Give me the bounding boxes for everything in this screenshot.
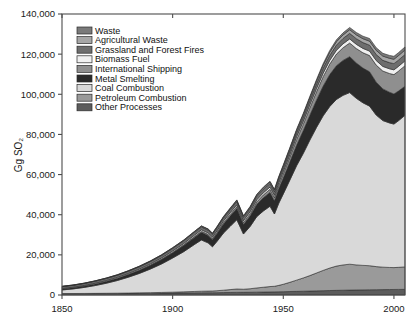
legend-swatch-grassland-and-forest-fires — [77, 46, 92, 53]
y-tick-label: 140,000 — [21, 8, 55, 19]
legend-swatch-coal-combustion — [77, 85, 92, 92]
y-tick-label: 60,000 — [26, 169, 55, 180]
legend-label-coal-combustion: Coal Combustion — [95, 83, 164, 93]
legend-label-waste: Waste — [95, 26, 120, 36]
y-tick-label: 100,000 — [21, 89, 55, 100]
legend-swatch-petroleum-combustion — [77, 94, 92, 101]
legend-swatch-waste — [77, 27, 92, 34]
legend-label-grassland-and-forest-fires: Grassland and Forest Fires — [95, 45, 205, 55]
stacked-area-chart: 020,00040,00060,00080,000100,000120,0001… — [0, 0, 415, 325]
y-tick-label: 80,000 — [26, 129, 55, 140]
legend-swatch-biomass-fuel — [77, 56, 92, 63]
chart-figure: 020,00040,00060,00080,000100,000120,0001… — [0, 0, 415, 325]
legend-label-other-processes: Other Processes — [95, 102, 163, 112]
y-tick-label: 40,000 — [26, 209, 55, 220]
y-axis-ticks-group: 020,00040,00060,00080,000100,000120,0001… — [21, 8, 62, 300]
y-tick-label: 120,000 — [21, 49, 55, 60]
legend-swatch-international-shipping — [77, 65, 92, 72]
legend-label-agricultural-waste: Agricultural Waste — [95, 35, 168, 45]
legend-swatch-agricultural-waste — [77, 37, 92, 44]
legend-label-biomass-fuel: Biomass Fuel — [95, 54, 150, 64]
x-tick-label: 1950 — [273, 303, 294, 314]
legend-label-petroleum-combustion: Petroleum Combustion — [95, 93, 187, 103]
legend-swatch-other-processes — [77, 104, 92, 111]
legend-label-metal-smelting: Metal Smelting — [95, 74, 155, 84]
x-tick-label: 1850 — [51, 303, 72, 314]
x-tick-label: 1900 — [162, 303, 183, 314]
x-tick-label: 2000 — [383, 303, 404, 314]
y-tick-label: 20,000 — [26, 249, 55, 260]
y-axis-title: Gg SO₂ — [13, 138, 24, 173]
legend-label-international-shipping: International Shipping — [95, 64, 182, 74]
y-tick-label: 0 — [50, 289, 55, 300]
legend-swatch-metal-smelting — [77, 75, 92, 82]
